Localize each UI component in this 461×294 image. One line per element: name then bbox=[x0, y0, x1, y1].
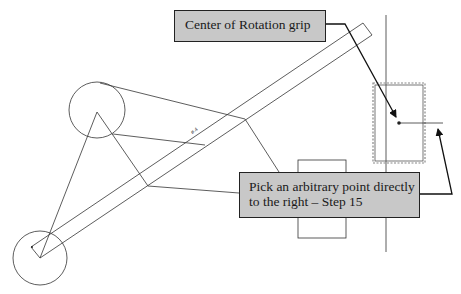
rotation-grip-point[interactable] bbox=[397, 121, 401, 125]
link-line bbox=[148, 186, 239, 193]
rotating-bar bbox=[31, 23, 372, 258]
callout-bottom-text: Pick an arbitrary point directly to the … bbox=[249, 179, 415, 209]
callout-pick-point: Pick an arbitrary point directly to the … bbox=[239, 172, 420, 218]
drawing-canvas: ø.4 bbox=[0, 0, 461, 294]
upper-circle bbox=[69, 82, 125, 138]
dimension-label: ø.4 bbox=[189, 126, 199, 135]
bar-endpoint bbox=[31, 246, 33, 248]
link-line bbox=[100, 83, 279, 172]
callout-center-of-rotation: Center of Rotation grip bbox=[174, 10, 326, 42]
callout-top-text: Center of Rotation grip bbox=[185, 17, 311, 32]
triangle-edge bbox=[40, 112, 97, 258]
cad-diagram: ø.4 Center of Rotation grip Pick an arbi… bbox=[0, 0, 461, 294]
leader-arrow-top bbox=[326, 24, 396, 117]
link-line bbox=[113, 134, 205, 145]
triangle-edge bbox=[97, 112, 148, 186]
